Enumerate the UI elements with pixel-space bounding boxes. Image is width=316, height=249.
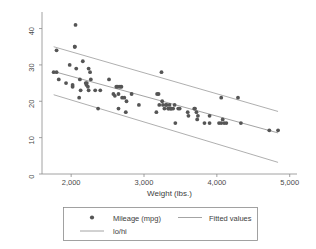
data-point xyxy=(195,110,199,114)
data-point xyxy=(157,103,161,107)
data-point xyxy=(236,96,240,100)
data-point xyxy=(77,96,81,100)
x-tick-label: 3,000 xyxy=(135,178,154,187)
data-point xyxy=(78,78,82,82)
data-point xyxy=(86,85,90,89)
chart-figure: 010203040 2,0003,0004,0005,000 Weight (l… xyxy=(0,0,316,249)
data-point xyxy=(193,107,197,111)
data-point xyxy=(196,114,200,118)
data-point xyxy=(117,107,121,111)
data-point xyxy=(81,59,85,63)
data-point xyxy=(137,103,141,107)
data-point xyxy=(117,92,121,96)
data-point xyxy=(74,23,78,27)
data-point xyxy=(122,96,126,100)
plot-points xyxy=(52,23,280,132)
data-point xyxy=(87,67,91,71)
data-point xyxy=(107,78,111,82)
data-point xyxy=(130,92,134,96)
legend-label-mileage: Mileage (mpg) xyxy=(113,214,161,223)
y-tick-label: 10 xyxy=(27,136,36,144)
data-point xyxy=(178,107,182,111)
data-point xyxy=(120,85,124,89)
data-point xyxy=(85,81,89,85)
data-point xyxy=(93,88,97,92)
legend-label-lohi: lo/hi xyxy=(113,227,127,236)
data-point xyxy=(208,114,212,118)
scatter-plot-svg: 010203040 2,0003,0004,0005,000 Weight (l… xyxy=(0,0,316,249)
data-point xyxy=(73,45,77,49)
series-line-hi xyxy=(54,47,278,112)
data-point xyxy=(173,121,177,125)
data-point xyxy=(187,114,191,118)
data-point xyxy=(154,110,158,114)
data-point xyxy=(168,103,172,107)
data-point xyxy=(74,67,78,71)
data-point xyxy=(224,121,228,125)
data-point xyxy=(221,118,225,122)
legend: Mileage (mpg) Fitted values lo/hi xyxy=(64,208,258,241)
data-point xyxy=(239,121,243,125)
data-point xyxy=(79,88,83,92)
data-point xyxy=(276,128,280,132)
data-point xyxy=(71,83,75,87)
x-tick-label: 4,000 xyxy=(207,178,226,187)
data-point xyxy=(160,99,164,103)
data-point xyxy=(157,92,161,96)
data-point xyxy=(87,88,91,92)
data-point xyxy=(98,88,102,92)
data-point xyxy=(89,78,93,82)
data-point xyxy=(163,107,167,111)
data-point xyxy=(55,70,59,74)
data-point xyxy=(160,70,164,74)
data-point xyxy=(113,94,117,98)
y-tick-label: 40 xyxy=(27,27,36,35)
data-point xyxy=(203,121,207,125)
data-point xyxy=(96,107,100,111)
legend-label-fitted: Fitted values xyxy=(209,214,252,223)
data-point xyxy=(219,96,223,100)
y-axis: 010203040 xyxy=(27,12,42,179)
x-tick-label: 2,000 xyxy=(62,178,81,187)
legend-marker-mileage xyxy=(90,215,94,219)
data-point xyxy=(57,78,61,82)
y-tick-label: 30 xyxy=(27,63,36,71)
data-point xyxy=(195,118,199,122)
data-point xyxy=(64,81,68,85)
data-point xyxy=(88,70,92,74)
x-axis: 2,0003,0004,0005,000 xyxy=(42,174,299,187)
y-tick-label: 0 xyxy=(27,175,36,179)
x-tick-label: 5,000 xyxy=(280,178,299,187)
y-tick-label: 20 xyxy=(27,100,36,108)
data-point xyxy=(171,107,175,111)
data-point xyxy=(124,110,128,114)
data-point xyxy=(186,110,190,114)
data-point xyxy=(55,48,59,52)
x-axis-title: Weight (lbs.) xyxy=(147,189,192,198)
series-line-fitted-values xyxy=(54,71,278,132)
data-point xyxy=(68,63,72,67)
data-point xyxy=(208,121,212,125)
data-point xyxy=(125,99,129,103)
legend-box xyxy=(64,208,258,241)
data-point xyxy=(267,128,271,132)
data-point xyxy=(173,103,177,107)
